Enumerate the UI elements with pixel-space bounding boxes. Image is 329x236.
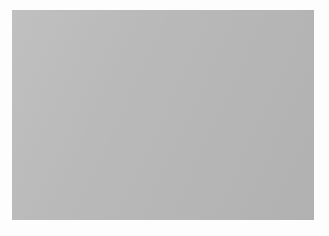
render-viewport-frame	[12, 10, 314, 220]
film-grain-overlay	[12, 10, 314, 220]
lighting-overlay	[12, 10, 314, 220]
screenshot-root	[0, 0, 329, 236]
